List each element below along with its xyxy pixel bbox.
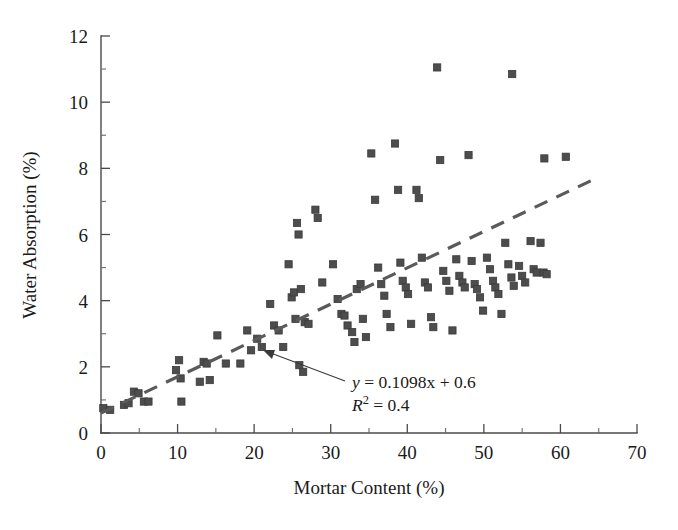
x-tick-label: 40 bbox=[398, 442, 417, 463]
data-point-marker bbox=[305, 320, 312, 327]
data-point-marker bbox=[515, 262, 522, 269]
data-point-marker bbox=[430, 324, 437, 331]
data-point-marker bbox=[453, 256, 460, 263]
data-point-marker bbox=[418, 254, 425, 261]
x-tick-label: 20 bbox=[245, 442, 264, 463]
regression-annotation: y = 0.1098x + 0.6 R2 = 0.4 bbox=[350, 372, 476, 415]
data-point-marker bbox=[537, 239, 544, 246]
data-point-marker bbox=[378, 281, 385, 288]
x-axis-ticks bbox=[101, 424, 637, 433]
data-point-marker bbox=[562, 153, 569, 160]
y-axis-tick-labels: 024681012 bbox=[69, 26, 89, 444]
x-axis-tick-labels: 010203040506070 bbox=[96, 442, 646, 463]
data-point-marker bbox=[408, 320, 415, 327]
data-point-marker bbox=[222, 360, 229, 367]
y-tick-label: 0 bbox=[79, 423, 89, 444]
regression-equation-text: y = 0.1098x + 0.6 bbox=[350, 372, 476, 392]
scatter-points-group bbox=[100, 64, 570, 414]
data-point-marker bbox=[456, 272, 463, 279]
regression-trendline bbox=[101, 177, 599, 413]
data-point-marker bbox=[319, 279, 326, 286]
y-tick-label: 2 bbox=[79, 357, 89, 378]
data-point-marker bbox=[381, 292, 388, 299]
annotation-arrow-head bbox=[263, 350, 275, 359]
data-point-marker bbox=[468, 257, 475, 264]
data-point-marker bbox=[387, 324, 394, 331]
data-point-marker bbox=[492, 284, 499, 291]
y-tick-label: 4 bbox=[79, 291, 89, 312]
x-tick-label: 50 bbox=[474, 442, 493, 463]
data-point-marker bbox=[508, 274, 515, 281]
data-point-marker bbox=[399, 277, 406, 284]
data-point-marker bbox=[214, 332, 221, 339]
data-point-marker bbox=[359, 315, 366, 322]
data-point-marker bbox=[505, 261, 512, 268]
data-point-marker bbox=[267, 300, 274, 307]
data-point-marker bbox=[178, 398, 185, 405]
data-point-marker bbox=[509, 70, 516, 77]
x-tick-label: 0 bbox=[96, 442, 106, 463]
data-point-marker bbox=[314, 214, 321, 221]
data-point-marker bbox=[427, 314, 434, 321]
data-point-marker bbox=[258, 343, 265, 350]
r2-symbol: R bbox=[351, 395, 363, 415]
data-point-marker bbox=[176, 357, 183, 364]
data-point-marker bbox=[172, 367, 179, 374]
x-tick-label: 60 bbox=[551, 442, 570, 463]
data-point-marker bbox=[498, 310, 505, 317]
data-point-marker bbox=[375, 264, 382, 271]
data-point-marker bbox=[383, 310, 390, 317]
data-point-marker bbox=[135, 390, 142, 397]
data-point-marker bbox=[290, 289, 297, 296]
x-axis-title: Mortar Content (%) bbox=[294, 477, 445, 499]
data-point-marker bbox=[479, 307, 486, 314]
data-point-marker bbox=[440, 267, 447, 274]
y-tick-label: 8 bbox=[79, 158, 89, 179]
data-point-marker bbox=[413, 186, 420, 193]
annotation-arrow bbox=[263, 350, 345, 381]
data-point-marker bbox=[244, 327, 251, 334]
data-point-marker bbox=[461, 284, 468, 291]
x-tick-label: 10 bbox=[168, 442, 187, 463]
regression-r2-text: R2 = 0.4 bbox=[351, 393, 410, 415]
data-point-marker bbox=[483, 254, 490, 261]
data-point-marker bbox=[486, 266, 493, 273]
x-tick-label: 30 bbox=[321, 442, 340, 463]
y-tick-label: 10 bbox=[69, 92, 88, 113]
data-point-marker bbox=[449, 327, 456, 334]
data-point-marker bbox=[351, 338, 358, 345]
data-point-marker bbox=[206, 376, 213, 383]
data-point-marker bbox=[446, 287, 453, 294]
x-tick-label: 70 bbox=[628, 442, 647, 463]
data-point-marker bbox=[533, 269, 540, 276]
equation-body: = 0.1098x + 0.6 bbox=[360, 372, 476, 392]
data-point-marker bbox=[522, 279, 529, 286]
data-point-marker bbox=[473, 285, 480, 292]
y-tick-label: 6 bbox=[79, 225, 89, 246]
data-point-marker bbox=[196, 378, 203, 385]
data-point-marker bbox=[237, 360, 244, 367]
data-point-marker bbox=[368, 150, 375, 157]
data-point-marker bbox=[437, 156, 444, 163]
data-point-marker bbox=[297, 285, 304, 292]
data-point-marker bbox=[362, 333, 369, 340]
data-point-marker bbox=[404, 290, 411, 297]
data-point-marker bbox=[489, 277, 496, 284]
data-point-marker bbox=[145, 398, 152, 405]
trendline-group bbox=[101, 177, 599, 413]
annotation-leader-line bbox=[268, 352, 345, 381]
data-point-marker bbox=[280, 343, 287, 350]
data-point-marker bbox=[357, 281, 364, 288]
data-point-marker bbox=[424, 284, 431, 291]
data-point-marker bbox=[402, 284, 409, 291]
y-axis-title: Water Absorption (%) bbox=[19, 151, 41, 318]
r2-value: = 0.4 bbox=[369, 395, 410, 415]
data-point-marker bbox=[527, 238, 534, 245]
data-point-marker bbox=[349, 328, 356, 335]
data-point-marker bbox=[510, 282, 517, 289]
data-point-marker bbox=[285, 261, 292, 268]
chart-canvas: 010203040506070 024681012 y = 0.1098x + … bbox=[0, 0, 678, 530]
data-point-marker bbox=[476, 294, 483, 301]
data-point-marker bbox=[434, 64, 441, 71]
data-point-marker bbox=[443, 277, 450, 284]
